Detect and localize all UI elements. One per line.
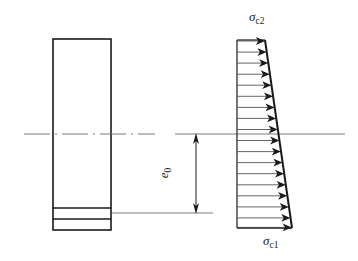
- e0-subscript: 0: [163, 168, 173, 173]
- dimension-label-e0: e0: [157, 168, 173, 179]
- e0-dimension-group: [193, 133, 199, 214]
- stress-arrow: [237, 181, 286, 189]
- stress-arrow: [237, 137, 279, 145]
- sigma-c2-subscript: c2: [255, 16, 264, 26]
- stress-arrow: [237, 224, 292, 232]
- stress-arrow: [237, 192, 287, 200]
- e-glyph: e: [156, 173, 171, 179]
- stress-arrow: [237, 115, 276, 123]
- stress-arrow: [237, 37, 265, 45]
- stress-arrow: [237, 104, 275, 112]
- stress-arrow: [237, 81, 272, 89]
- stress-arrow: [237, 126, 278, 134]
- sigma-c1-subscript: c1: [269, 240, 278, 250]
- stress-arrow: [237, 159, 283, 167]
- stress-arrow: [237, 214, 291, 222]
- diagram-svg: [0, 0, 358, 261]
- stress-arrow: [237, 148, 281, 156]
- stress-label-sigma-c1: σc1: [263, 234, 279, 250]
- stress-arrow: [237, 59, 268, 67]
- stress-arrow: [237, 70, 270, 78]
- stress-arrow: [237, 92, 273, 100]
- figure-canvas: σc2 σc1 e0: [0, 0, 358, 261]
- stress-arrow: [237, 48, 267, 56]
- stress-label-sigma-c2: σc2: [249, 10, 265, 26]
- stress-arrow: [237, 203, 289, 211]
- section-view-group: [53, 39, 111, 230]
- stress-arrow: [237, 170, 284, 178]
- section-outline: [53, 39, 111, 230]
